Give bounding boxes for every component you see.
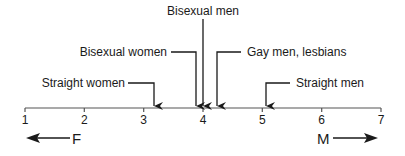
label-bisexual-women: Bisexual women bbox=[80, 45, 167, 59]
axis: 1 2 3 4 5 6 7 bbox=[22, 108, 385, 127]
tick-label: 2 bbox=[81, 113, 88, 127]
tick-label: 1 bbox=[22, 113, 29, 127]
label-m: M bbox=[317, 130, 330, 147]
tick-label: 5 bbox=[259, 113, 266, 127]
tick-label: 6 bbox=[318, 113, 325, 127]
arrow-straight-women bbox=[128, 83, 154, 106]
tick-label: 3 bbox=[140, 113, 147, 127]
label-straight-women: Straight women bbox=[42, 76, 125, 90]
arrow-straight-men bbox=[266, 83, 290, 106]
arrow-bisexual-women bbox=[171, 52, 196, 106]
label-f: F bbox=[72, 130, 81, 147]
label-gay-men-lesbians: Gay men, lesbians bbox=[247, 45, 346, 59]
gender-scale-diagram: 1 2 3 4 5 6 7 Straight women Bisexual wo… bbox=[0, 0, 405, 156]
label-bisexual-men: Bisexual men bbox=[167, 4, 239, 18]
label-straight-men: Straight men bbox=[296, 76, 364, 90]
arrow-gay-men-lesbians bbox=[217, 52, 241, 106]
tick-label: 7 bbox=[378, 113, 385, 127]
direction-female: F bbox=[26, 130, 81, 147]
tick-label: 4 bbox=[200, 113, 207, 127]
direction-male: M bbox=[317, 130, 378, 147]
